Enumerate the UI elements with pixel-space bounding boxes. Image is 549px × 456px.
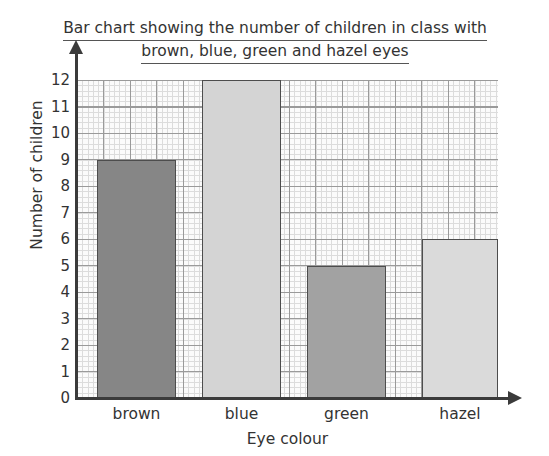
y-tick-0: 0 [44,391,70,406]
y-tick-6: 6 [44,232,70,247]
y-tick-12: 12 [44,73,70,88]
y-tick-2: 2 [44,338,70,353]
y-tick-4: 4 [44,285,70,300]
x-tick-blue: blue [202,405,281,423]
chart-title: Bar chart showing the number of children… [60,18,490,64]
x-axis-title: Eye colour [77,430,498,448]
y-tick-3: 3 [44,312,70,327]
bar-hazel [422,239,498,398]
y-tick-11: 11 [44,100,70,115]
plot-area [77,80,498,398]
y-tick-9: 9 [44,153,70,168]
bar-brown [97,160,176,399]
bar-blue [202,80,281,398]
x-axis-line [75,397,512,400]
x-tick-green: green [307,405,386,423]
x-tick-brown: brown [97,405,176,423]
bar-green [307,266,386,399]
y-tick-5: 5 [44,259,70,274]
y-axis-arrow-icon [69,40,83,54]
y-tick-8: 8 [44,179,70,194]
chart-title-line-1: Bar chart showing the number of children… [63,18,487,41]
x-tick-hazel: hazel [422,405,498,423]
y-tick-7: 7 [44,206,70,221]
y-tick-10: 10 [44,126,70,141]
x-axis-arrow-icon [508,391,522,405]
y-axis-line [75,52,78,400]
y-axis-title: Number of children [28,75,46,275]
chart-title-line-2: brown, blue, green and hazel eyes [141,41,408,64]
y-tick-1: 1 [44,365,70,380]
